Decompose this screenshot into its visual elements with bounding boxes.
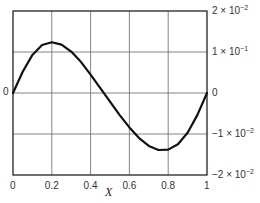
x-tick-label: 0 xyxy=(10,181,16,191)
x-axis-label: X xyxy=(105,185,112,200)
x-tick-label: 0.8 xyxy=(161,181,175,191)
left-y-tick-label: 0 xyxy=(3,87,9,97)
right-y-tick-label: 2 × 10−2 xyxy=(212,6,248,16)
right-y-tick-label: 0 xyxy=(212,88,218,98)
right-y-tick-label: −2 × 10−2 xyxy=(212,170,254,180)
x-tick-label: 0.2 xyxy=(45,181,59,191)
right-y-tick-label: 1 × 10−1 xyxy=(212,47,248,57)
x-tick-label: 1 xyxy=(204,181,210,191)
grid-lines xyxy=(13,11,207,175)
x-tick-label: 0.4 xyxy=(84,181,98,191)
right-y-tick-label: −1 × 10−2 xyxy=(212,129,254,139)
x-tick-label: 0.6 xyxy=(122,181,136,191)
